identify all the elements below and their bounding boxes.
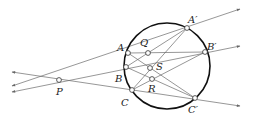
label-p: P [55,86,63,97]
rays-through-p [12,9,240,106]
segment-a-c2 [128,53,195,98]
label-b: B [114,73,122,84]
point-b [124,65,129,70]
label-c2: C′ [188,104,199,115]
segment-a-b2 [128,52,205,53]
labeled-points: PABCA′B′C′QSR [55,14,217,115]
label-c: C [121,97,129,108]
segment-c-b2 [132,52,205,90]
point-a2 [185,26,190,31]
projective-geometry-diagram: PABCA′B′C′QSR [0,0,253,118]
label-s: S [156,61,163,72]
circle [124,23,210,109]
point-s [148,66,153,71]
point-c2 [193,96,198,101]
label-a2: A′ [187,14,198,25]
point-q [146,51,151,56]
label-a: A [116,42,124,53]
label-b2: B′ [206,41,217,52]
point-c [130,88,135,93]
point-a [126,51,131,56]
label-r: R [147,83,156,94]
label-q: Q [140,37,148,48]
point-r [150,77,155,82]
point-p [57,78,62,83]
cross-joining-segments [126,28,205,98]
